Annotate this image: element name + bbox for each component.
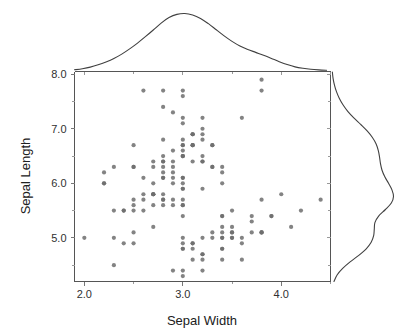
- scatter-point: [181, 241, 185, 245]
- scatter-point: [200, 258, 204, 262]
- scatter-point: [181, 88, 185, 92]
- right-kde-curve: [332, 72, 393, 281]
- scatter-point: [82, 236, 86, 240]
- scatter-point: [191, 143, 195, 147]
- y-axis-title: Sepal Length: [18, 138, 33, 215]
- scatter-point: [240, 236, 244, 240]
- scatter-point: [112, 208, 116, 212]
- scatter-point: [112, 165, 116, 169]
- scatter-point: [250, 214, 254, 218]
- x-tick-label: 4.0: [274, 288, 289, 300]
- scatter-point: [220, 181, 224, 185]
- scatter-point: [131, 208, 135, 212]
- scatter-point: [151, 181, 155, 185]
- scatter-point: [279, 192, 283, 196]
- scatter-point: [151, 192, 155, 196]
- scatter-point: [151, 203, 155, 207]
- scatter-point: [131, 230, 135, 234]
- scatter-point: [122, 241, 126, 245]
- scatter-point: [259, 230, 263, 234]
- scatter-point: [200, 159, 204, 163]
- scatter-point: [299, 208, 303, 212]
- scatter-point: [181, 116, 185, 120]
- scatter-point: [240, 116, 244, 120]
- scatter-point: [200, 187, 204, 191]
- scatter-point: [191, 159, 195, 163]
- scatter-point: [250, 219, 254, 223]
- scatter-point: [200, 154, 204, 158]
- top-kde-curve: [75, 13, 327, 70]
- scatter-point: [131, 241, 135, 245]
- scatter-point: [171, 148, 175, 152]
- scatter-point: [240, 258, 244, 262]
- scatter-point: [161, 170, 165, 174]
- scatter-point: [200, 252, 204, 256]
- top-marginal-density: [75, 13, 327, 70]
- scatter-point: [230, 208, 234, 212]
- scatter-point: [181, 143, 185, 147]
- scatter-point: [131, 203, 135, 207]
- scatter-point: [131, 198, 135, 202]
- scatter-point: [181, 187, 185, 191]
- scatter-point: [230, 236, 234, 240]
- plot-frame: [75, 72, 331, 282]
- scatter-point: [181, 198, 185, 202]
- scatter-point: [259, 88, 263, 92]
- scatter-point: [220, 230, 224, 234]
- scatter-point: [161, 198, 165, 202]
- scatter-point: [181, 154, 185, 158]
- scatter-point: [191, 241, 195, 245]
- scatter-point: [200, 116, 204, 120]
- scatter-point: [210, 143, 214, 147]
- scatter-point: [220, 225, 224, 229]
- x-tick-label: 2.0: [77, 288, 92, 300]
- scatter-point: [220, 236, 224, 240]
- scatter-point: [161, 165, 165, 169]
- scatter-point: [181, 236, 185, 240]
- scatter-point: [161, 203, 165, 207]
- scatter-point: [210, 230, 214, 234]
- scatter-point: [181, 94, 185, 98]
- scatter-point: [171, 198, 175, 202]
- scatter-point: [230, 225, 234, 229]
- scatter-point: [220, 258, 224, 262]
- scatter-point: [161, 138, 165, 142]
- y-tick-label: 7.0: [51, 123, 66, 135]
- y-tick-label: 8.0: [51, 68, 66, 80]
- scatter-point: [259, 78, 263, 82]
- scatter-point: [122, 208, 126, 212]
- scatter-point: [220, 247, 224, 251]
- jointplot-canvas: 2.03.04.05.06.07.08.0 Sepal Width Sepal …: [0, 0, 418, 334]
- scatter-point: [181, 121, 185, 125]
- scatter-point: [200, 132, 204, 136]
- scatter-point: [161, 176, 165, 180]
- scatter-point: [319, 198, 323, 202]
- axis-tick-labels: 2.03.04.05.06.07.08.0: [51, 68, 289, 299]
- scatter-point: [171, 170, 175, 174]
- scatter-point: [230, 230, 234, 234]
- jointplot-figure: 2.03.04.05.06.07.08.0 Sepal Width Sepal …: [0, 0, 418, 334]
- scatter-point: [181, 274, 185, 278]
- scatter-point: [259, 198, 263, 202]
- scatter-point: [141, 88, 145, 92]
- scatter-points: [82, 78, 323, 279]
- y-tick-label: 6.0: [51, 177, 66, 189]
- scatter-point: [141, 176, 145, 180]
- scatter-point: [161, 154, 165, 158]
- scatter-point: [181, 203, 185, 207]
- scatter-point: [220, 214, 224, 218]
- scatter-point: [210, 165, 214, 169]
- x-axis-title: Sepal Width: [167, 313, 237, 328]
- scatter-point: [161, 105, 165, 109]
- scatter-point: [200, 127, 204, 131]
- scatter-point: [171, 176, 175, 180]
- scatter-point: [181, 176, 185, 180]
- scatter-point: [161, 192, 165, 196]
- scatter-point: [240, 241, 244, 245]
- scatter-point: [289, 225, 293, 229]
- scatter-point: [181, 148, 185, 152]
- scatter-point: [181, 247, 185, 251]
- scatter-point: [141, 208, 145, 212]
- scatter-point: [171, 110, 175, 114]
- scatter-point: [191, 258, 195, 262]
